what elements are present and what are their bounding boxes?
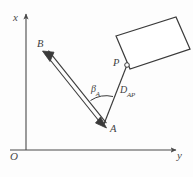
- kinematics-figure: x y O B A P βA DAP: [0, 0, 193, 177]
- x-axis-label: x: [13, 12, 18, 23]
- joint-p-marker: [125, 63, 130, 68]
- body-panel: [116, 17, 190, 69]
- point-p-label: P: [113, 58, 119, 69]
- distance-dap-label: DAP: [120, 85, 136, 98]
- angle-subscript: A: [96, 90, 100, 97]
- arrowhead-b: [43, 51, 55, 62]
- distance-subscript: AP: [127, 91, 135, 98]
- y-axis-label: y: [177, 150, 182, 161]
- point-a-label: A: [110, 124, 116, 135]
- angle-beta-a-label: βA: [91, 84, 100, 97]
- origin-label: O: [10, 151, 18, 162]
- point-b-label: B: [37, 39, 43, 50]
